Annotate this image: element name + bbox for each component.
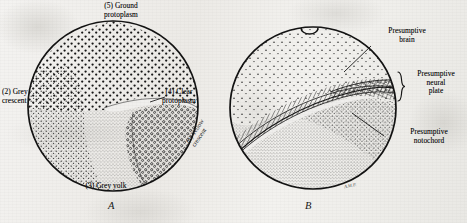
figure-letter-a: A — [108, 200, 114, 211]
label-presumptive-brain: Presumptive brain — [370, 27, 444, 44]
label-grey-crescent: (2) Grey crescent — [2, 88, 46, 105]
figure-page: (5) Ground protoplasm (2) Grey crescent … — [0, 0, 467, 223]
label-grey-yolk: (3) Grey yolk — [66, 182, 146, 191]
panel-a-egg — [28, 21, 199, 191]
label-clear-protoplasm: (4) Clear protoplasm — [150, 88, 208, 105]
brace-neural-plate — [398, 72, 405, 101]
label-presumptive-notochord: Presumptive notochord — [392, 128, 466, 145]
label-ground-protoplasm: (5) Ground protoplasm — [86, 2, 156, 19]
label-presumptive-neural-plate: Presumptive neural plate — [406, 70, 466, 96]
panel-b-egg — [227, 27, 397, 189]
figure-letter-b: B — [305, 200, 311, 211]
